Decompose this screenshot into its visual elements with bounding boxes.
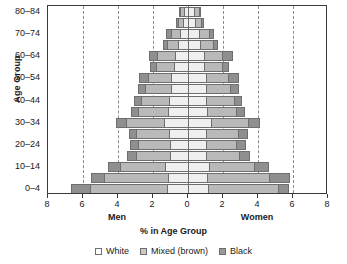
bar-segment-men-black [130,140,139,150]
bar-segment-women-black [201,18,204,28]
x-tick-label-4: 0 [184,199,189,209]
bar-segment-men-white [170,151,189,161]
bar-segment-women-mixed [200,40,213,50]
bar-segment-men-white [171,84,190,94]
mixed-swatch-icon [140,248,147,255]
bar-segment-women-mixed [206,96,234,106]
bar-segment-women-black [236,107,245,117]
bar-segment-women-mixed [204,62,223,72]
bar-segment-women-white [188,62,205,72]
bar-row [48,173,326,183]
legend-item-black[interactable]: Black [219,246,252,256]
x-tick-label-3: 2 [149,199,154,209]
bar-segment-women-white [188,151,207,161]
bar-segment-women-white [188,140,207,150]
x-tick-label-8: 8 [324,199,329,209]
bar-segment-men-mixed [126,118,166,128]
population-pyramid-chart: Age Group 80–8470–7460–6450–5440–4430–34… [0,0,347,264]
x-tickmark-7 [292,194,293,198]
bar-row [48,73,326,83]
bar-segment-men-white [171,73,189,83]
bar-segment-women-black [248,118,260,128]
bar-segment-women-white [188,107,208,117]
bar-segment-women-mixed [207,173,270,183]
bar-segment-men-mixed [136,129,169,139]
legend-label: Black [230,246,252,256]
bar-row [48,151,326,161]
y-tick-40-44: 40–44 [15,95,40,105]
bar-segment-women-white [188,73,207,83]
bar-segment-men-black [134,96,142,106]
x-tick-label-5: 2 [219,199,224,209]
bar-segment-men-mixed [157,51,176,61]
legend-label: Mixed (brown) [151,246,208,256]
bar-row [48,129,326,139]
bar-segment-women-mixed [209,162,255,172]
bar-segment-women-black [228,73,239,83]
bar-row [48,107,326,117]
bar-segment-women-mixed [207,107,237,117]
bar-segment-men-mixed [167,40,179,50]
bar-segment-men-white [175,51,189,61]
bar-row [48,84,326,94]
bar-segment-men-black [71,184,91,194]
bar-segment-men-black [127,151,138,161]
x-tickmark-1 [82,194,83,198]
bar-segment-women-black [234,96,243,106]
bar-segment-women-white [188,118,212,128]
plot-area [47,5,327,194]
chart-legend: WhiteMixed (brown)Black [0,246,347,256]
bar-row [48,51,326,61]
x-axis-title: % in Age Group [0,226,347,236]
bar-segment-women-black [239,151,251,161]
white-swatch-icon [95,248,102,255]
bar-segment-men-mixed [138,107,169,117]
x-tickmark-0 [47,194,48,198]
bar-segment-women-white [188,40,201,50]
bar-segment-women-mixed [206,140,238,150]
bar-segment-men-white [170,140,189,150]
bar-segment-women-white [188,162,210,172]
bar-segment-women-mixed [204,51,223,61]
y-tick-30-34: 30–34 [15,117,40,127]
x-axis-tick-labels: 864202468 [47,199,327,211]
bar-segment-men-white [169,129,189,139]
bar-segment-women-black [199,7,201,17]
y-tick-70-74: 70–74 [15,28,40,38]
bar-segment-men-black [179,7,181,17]
bar-segment-women-black [222,51,233,61]
bar-segment-men-mixed [138,140,171,150]
bar-segment-women-black [213,40,218,50]
bar-row [48,18,326,28]
bar-segment-women-mixed [211,118,250,128]
bar-segment-women-mixed [206,151,240,161]
bar-segment-men-black [129,129,138,139]
bar-segment-women-black [222,62,229,72]
bar-segment-men-black [149,51,159,61]
bar-segment-men-black [166,29,171,39]
bar-segment-men-white [168,107,189,117]
bar-segment-women-white [188,184,209,194]
x-tickmark-2 [117,194,118,198]
y-tick-10-14: 10–14 [15,161,40,171]
y-tick-50-54: 50–54 [15,72,40,82]
bar-segment-men-white [169,96,189,106]
bar-segment-women-white [188,51,205,61]
legend-item-white[interactable]: White [95,246,129,256]
bar-row [48,40,326,50]
bar-segment-women-white [188,129,207,139]
x-tickmark-4 [187,194,188,198]
bar-segment-women-white [188,96,207,106]
x-tickmark-3 [152,194,153,198]
bar-segment-men-mixed [141,96,170,106]
women-side-label: Women [241,212,273,222]
bar-segment-men-black [116,118,127,128]
bar-segment-women-black [236,140,246,150]
x-tickmark-5 [222,194,223,198]
x-tickmark-6 [257,194,258,198]
bar-segment-men-black [91,173,105,183]
legend-item-mixed[interactable]: Mixed (brown) [140,246,208,256]
bar-segment-women-black [238,129,248,139]
bar-segment-men-mixed [120,162,167,172]
bar-segment-women-mixed [208,184,279,194]
